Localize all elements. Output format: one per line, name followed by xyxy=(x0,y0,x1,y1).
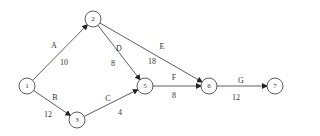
duration-label: 8 xyxy=(172,91,176,100)
node-label: 1 xyxy=(25,82,29,90)
duration-label: 8 xyxy=(111,59,115,68)
edge-d xyxy=(98,25,140,79)
edge-e xyxy=(100,23,202,82)
node-label: 2 xyxy=(91,15,95,23)
activity-label: E xyxy=(160,42,165,51)
node-label: 6 xyxy=(207,82,211,90)
duration-label: 12 xyxy=(232,93,240,102)
node-label: 5 xyxy=(143,82,147,90)
activity-label: A xyxy=(51,41,57,50)
duration-label: 4 xyxy=(118,108,122,117)
node-label: 3 xyxy=(75,116,79,124)
activity-label: B xyxy=(52,93,57,102)
activity-label: F xyxy=(172,73,176,82)
duration-label: 18 xyxy=(148,57,156,66)
activity-label: G xyxy=(238,76,244,85)
node-label: 7 xyxy=(273,82,277,90)
edge-a xyxy=(33,25,88,81)
duration-label: 10 xyxy=(60,58,68,67)
edge-c xyxy=(84,90,138,117)
activity-label: D xyxy=(116,44,122,53)
activity-label: C xyxy=(105,94,110,103)
duration-label: 12 xyxy=(44,110,52,119)
